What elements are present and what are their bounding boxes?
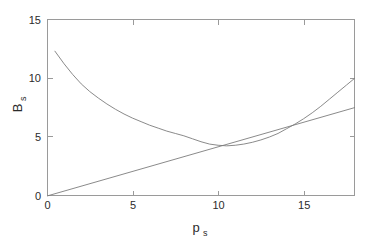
- y-tick-label-1: 5: [35, 131, 41, 143]
- series-variable-cost-line: [47, 108, 355, 197]
- x-tick-label-2: 10: [212, 199, 224, 211]
- series-total-cost-curve: [55, 51, 355, 146]
- x-tick-label-0: 0: [44, 199, 50, 211]
- y-axis-title: B s: [10, 96, 28, 112]
- x-tick-marks-top: [48, 20, 305, 25]
- y-tick-label-0: 0: [35, 190, 41, 202]
- y-tick-label-3: 15: [29, 14, 41, 26]
- y-axis-title-subscript: s: [18, 96, 28, 101]
- chart-figure: 0 5 10 15 0 5 10 15 p s B s: [0, 0, 372, 244]
- x-tick-marks-bottom: [48, 191, 305, 196]
- x-axis-title-base: p: [192, 220, 199, 235]
- x-tick-label-3: 15: [298, 199, 310, 211]
- x-axis-title: p s: [192, 220, 208, 238]
- axes-box: [48, 20, 355, 196]
- y-tick-marks-left: [48, 20, 53, 196]
- x-axis-title-subscript: s: [203, 228, 208, 238]
- plot-canvas: 0 5 10 15 0 5 10 15 p s B s: [0, 0, 372, 244]
- y-axis-title-base: B: [10, 104, 25, 113]
- x-tick-label-1: 5: [130, 199, 136, 211]
- y-tick-label-2: 10: [29, 72, 41, 84]
